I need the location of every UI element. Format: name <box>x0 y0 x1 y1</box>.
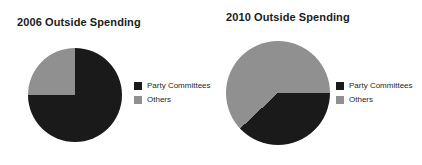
legend-item-others: Others <box>336 94 413 105</box>
legend-item-party-committees: Party Committees <box>336 80 413 91</box>
chart-panel-2010: 2010 Outside Spending Party Committees O… <box>211 0 422 165</box>
legend-label-others: Others <box>147 95 171 104</box>
legend-label-party-committees: Party Committees <box>147 81 211 90</box>
legend-label-others: Others <box>349 95 373 104</box>
legend-2010: Party Committees Others <box>336 80 413 108</box>
page-title-2010: 2010 Outside Spending <box>226 11 350 23</box>
legend-swatch-party-committees-icon <box>134 82 142 90</box>
legend-swatch-others-icon <box>134 96 142 104</box>
legend-swatch-others-icon <box>336 96 344 104</box>
legend-swatch-party-committees-icon <box>336 82 344 90</box>
pie-chart-2006 <box>28 48 122 142</box>
legend-2006: Party Committees Others <box>134 80 211 108</box>
legend-item-others: Others <box>134 94 211 105</box>
legend-label-party-committees: Party Committees <box>349 81 413 90</box>
legend-item-party-committees: Party Committees <box>134 80 211 91</box>
chart-panel-2006: 2006 Outside Spending Party Committees O… <box>0 0 211 165</box>
page-title-2006: 2006 Outside Spending <box>17 16 141 28</box>
pie-chart-2010 <box>226 41 330 145</box>
